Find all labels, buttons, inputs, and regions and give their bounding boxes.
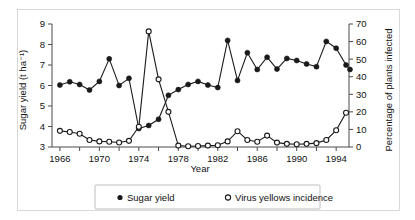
right-axis: 010203040506070 Percentage of plants inf…: [349, 18, 394, 152]
left-tick-label: 5: [40, 100, 45, 111]
data-point: [57, 83, 62, 88]
legend-label: Sugar yield: [127, 192, 175, 203]
chart-legend: Sugar yieldVirus yellows incidence: [95, 185, 333, 209]
series-line: [60, 40, 350, 128]
data-point: [196, 79, 201, 84]
x-tick-label: 1974: [128, 153, 149, 164]
data-point: [166, 109, 171, 114]
data-point: [265, 133, 270, 138]
data-point: [57, 128, 62, 133]
x-tick-label: 1978: [168, 153, 189, 164]
right-tick-label: 0: [356, 141, 361, 152]
data-point: [136, 124, 141, 129]
data-point: [274, 67, 279, 72]
data-point: [215, 85, 220, 90]
data-point: [334, 46, 339, 51]
data-point: [156, 117, 161, 122]
data-point: [255, 139, 260, 144]
left-tick-label: 6: [40, 80, 45, 91]
legend-marker-filled-circle-icon: [117, 195, 122, 200]
data-point: [146, 123, 151, 128]
data-point: [176, 87, 181, 92]
series-sugar-yield: [57, 38, 352, 131]
data-point: [235, 78, 240, 83]
data-point: [255, 67, 260, 72]
data-point: [304, 61, 309, 66]
x-axis: 19661970197419781982198619901994 Year: [49, 147, 349, 174]
data-series-layer: [57, 29, 352, 149]
x-tick-label: 1990: [286, 153, 307, 164]
data-point: [265, 55, 270, 60]
x-axis-tick-labels: 19661970197419781982198619901994: [49, 153, 346, 164]
chart-canvas: 3456789 Sugar yield (t ha⁻¹) 01020304050…: [0, 0, 415, 220]
series-virus-yellows: [57, 29, 348, 149]
data-point: [117, 83, 122, 88]
data-point: [314, 141, 319, 146]
legend-item: Virus yellows incidence: [225, 192, 333, 203]
x-tick-label: 1982: [207, 153, 228, 164]
data-point: [314, 64, 319, 69]
legend-label: Virus yellows incidence: [235, 192, 333, 203]
data-point: [186, 144, 191, 149]
data-point: [166, 93, 171, 98]
data-point: [294, 142, 299, 147]
data-point: [205, 83, 210, 88]
data-point: [284, 141, 289, 146]
data-point: [215, 143, 220, 148]
series-line: [60, 31, 346, 146]
data-point: [324, 137, 329, 142]
data-point: [205, 143, 210, 148]
data-point: [107, 56, 112, 61]
data-point: [324, 39, 329, 44]
data-point: [176, 143, 181, 148]
data-point: [245, 50, 250, 55]
left-axis: 3456789 Sugar yield (t ha⁻¹): [17, 18, 52, 152]
x-tick-label: 1994: [326, 153, 347, 164]
data-point: [334, 128, 339, 133]
data-point: [225, 139, 230, 144]
right-tick-label: 20: [356, 106, 367, 117]
chart-figure: 3456789 Sugar yield (t ha⁻¹) 01020304050…: [0, 0, 415, 220]
left-tick-label: 9: [40, 18, 45, 29]
right-tick-label: 60: [356, 36, 367, 47]
right-tick-label: 50: [356, 54, 367, 65]
data-point: [77, 131, 82, 136]
left-tick-label: 4: [40, 121, 45, 132]
data-point: [77, 82, 82, 87]
data-point: [87, 88, 92, 93]
data-point: [117, 140, 122, 145]
data-point: [304, 141, 309, 146]
x-tick-label: 1966: [49, 153, 70, 164]
data-point: [97, 79, 102, 84]
data-point: [344, 110, 349, 115]
right-axis-title: Percentage of plants infected: [383, 28, 394, 151]
right-tick-label: 40: [356, 71, 367, 82]
data-point: [67, 130, 72, 135]
data-point: [196, 143, 201, 148]
data-point: [126, 138, 131, 143]
right-tick-label: 10: [356, 124, 367, 135]
data-point: [347, 67, 352, 72]
left-tick-label: 3: [40, 141, 45, 152]
data-point: [146, 29, 151, 34]
x-tick-label: 1986: [247, 153, 268, 164]
data-point: [274, 140, 279, 145]
left-tick-label: 7: [40, 59, 45, 70]
left-axis-tick-labels: 3456789: [40, 18, 45, 152]
data-point: [245, 137, 250, 142]
left-tick-label: 8: [40, 39, 45, 50]
data-point: [67, 79, 72, 84]
data-point: [225, 38, 230, 43]
data-point: [87, 137, 92, 142]
data-point: [107, 139, 112, 144]
data-point: [284, 56, 289, 61]
legend-marker-open-circle-icon: [225, 195, 230, 200]
data-point: [97, 139, 102, 144]
x-axis-title: Year: [190, 163, 209, 174]
data-point: [235, 129, 240, 134]
x-tick-label: 1970: [89, 153, 110, 164]
right-tick-label: 70: [356, 18, 367, 29]
left-axis-title: Sugar yield (t ha⁻¹): [17, 50, 28, 131]
right-axis-ticks: [349, 24, 353, 147]
data-point: [344, 63, 349, 68]
